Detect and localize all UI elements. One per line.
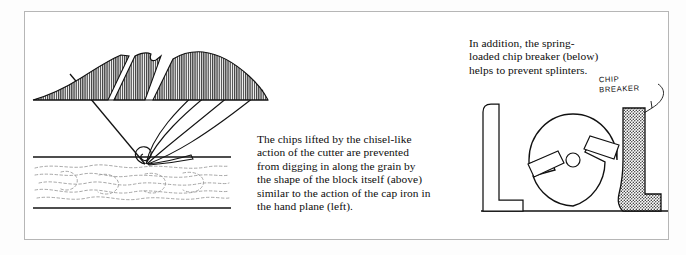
chip-breaker-annotation-line2: BREAKER xyxy=(599,84,640,95)
illustration-plate-frame: CHIP BREAKER The chips lifted by the chi… xyxy=(24,11,669,240)
cutterhead-arbor-hole xyxy=(566,153,580,167)
chip-mound-left xyxy=(33,55,129,100)
chip-breaker-shoe xyxy=(618,108,661,211)
caption-line: the shape of the block itself (above) xyxy=(257,173,439,186)
caption-line: the hand plane (left). xyxy=(257,200,439,213)
chip-mound-right xyxy=(153,52,268,100)
caption-line: The chips lifted by the chisel-like xyxy=(257,133,439,146)
wood-grain-texture xyxy=(35,165,229,200)
caption-line: In addition, the spring- xyxy=(469,37,629,50)
chip-mound-diagram xyxy=(33,52,268,100)
chip-breaker-caption: In addition, the spring- loaded chip bre… xyxy=(469,37,629,77)
caption-line: helps to prevent splinters. xyxy=(469,64,629,77)
page-background: CHIP BREAKER The chips lifted by the chi… xyxy=(0,0,686,255)
cutterhead-chip-breaker-diagram xyxy=(481,84,668,211)
caption-line: similar to the action of the cap iron in xyxy=(257,187,439,200)
infeed-fence xyxy=(483,104,523,211)
chip-lifting-caption: The chips lifted by the chisel-like acti… xyxy=(257,133,439,214)
caption-line: action of the cutter are prevented xyxy=(257,146,439,159)
caption-line: from digging in along the grain by xyxy=(257,160,439,173)
caption-line: loaded chip breaker (below) xyxy=(469,50,629,63)
